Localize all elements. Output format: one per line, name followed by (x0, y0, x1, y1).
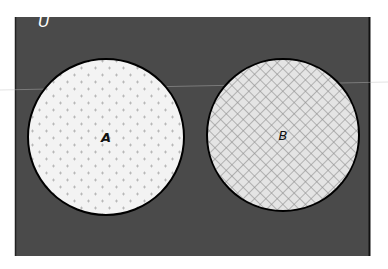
universe-label: U (38, 12, 50, 31)
venn-diagram: U A B (0, 0, 388, 269)
set-a-label: A (100, 130, 111, 145)
set-b-label: B (279, 128, 288, 143)
